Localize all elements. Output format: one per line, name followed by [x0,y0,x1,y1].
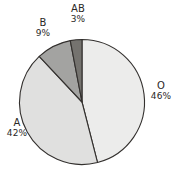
pie-chart-figure: AB 3% B 9% A 42% O 46% [0,0,178,174]
pie-label-ab: AB 3% [60,3,96,24]
pie-slices [20,39,145,164]
pie-label-ab-value: 3% [60,14,96,24]
pie-label-b-name: B [28,17,58,28]
pie-label-o: O 46% [146,80,176,101]
pie-label-a: A 42% [1,117,33,138]
pie-label-o-name: O [146,80,176,91]
pie-label-a-name: A [1,117,33,128]
pie-label-b-value: 9% [28,28,58,38]
pie-label-ab-name: AB [60,3,96,14]
pie-label-o-value: 46% [146,91,176,101]
pie-label-b: B 9% [28,17,58,38]
pie-label-a-value: 42% [1,128,33,138]
